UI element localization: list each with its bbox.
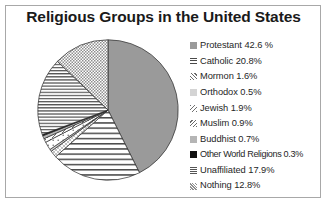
legend-item-mormon[interactable]: Mormon 1.6%: [190, 69, 325, 85]
legend-item-label: Protestant 42.6 %: [200, 41, 273, 50]
legend-item-jewish[interactable]: Jewish 1.9%: [190, 100, 325, 116]
legend-item-label: Unaffiliated 17.9%: [200, 166, 274, 175]
legend-swatch-icon: [190, 183, 197, 190]
legend-item-label: Other World Religions 0.3%: [200, 150, 303, 159]
legend-swatch-icon: [190, 42, 197, 49]
legend-item-nothing[interactable]: Nothing 12.8%: [190, 178, 325, 194]
legend-item-muslim[interactable]: Muslim 0.9%: [190, 116, 325, 132]
legend-item-label: Buddhist 0.7%: [200, 135, 259, 144]
legend-item-buddhist[interactable]: Buddhist 0.7%: [190, 132, 325, 148]
legend-item-label: Jewish 1.9%: [200, 104, 252, 113]
legend-item-unaffiliated[interactable]: Unaffiliated 17.9%: [190, 163, 325, 179]
legend-item-orthodox[interactable]: Orthodox 0.5%: [190, 85, 325, 101]
legend-item-label: Muslim 0.9%: [200, 119, 253, 128]
legend: Protestant 42.6 %Catholic 20.8%Mormon 1.…: [190, 38, 325, 194]
pie-chart-plot: [37, 39, 179, 181]
legend-item-label: Mormon 1.6%: [200, 72, 257, 81]
pie-svg: [37, 39, 179, 181]
legend-swatch-icon: [190, 58, 197, 65]
legend-item-catholic[interactable]: Catholic 20.8%: [190, 54, 325, 70]
legend-item-label: Catholic 20.8%: [200, 57, 262, 66]
legend-swatch-icon: [190, 73, 197, 80]
legend-swatch-icon: [190, 89, 197, 96]
pie-chart-figure: Religious Groups in the United States: [0, 0, 327, 204]
legend-item-other-world-religions[interactable]: Other World Religions 0.3%: [190, 147, 325, 163]
legend-swatch-icon: [190, 151, 197, 158]
legend-swatch-icon: [190, 136, 197, 143]
legend-item-label: Orthodox 0.5%: [200, 88, 261, 97]
legend-swatch-icon: [190, 167, 197, 174]
page-title: Religious Groups in the United States: [0, 8, 327, 26]
legend-swatch-icon: [190, 120, 197, 127]
legend-item-label: Nothing 12.8%: [200, 181, 260, 190]
legend-swatch-icon: [190, 105, 197, 112]
legend-item-protestant[interactable]: Protestant 42.6 %: [190, 38, 325, 54]
pie-slice-group: [38, 40, 178, 180]
